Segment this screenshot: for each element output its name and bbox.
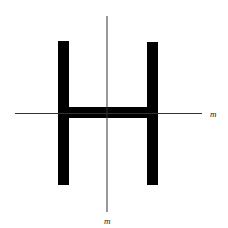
h-section-diagram: m m <box>0 0 228 228</box>
horizontal-axis-label: m <box>210 109 217 119</box>
vertical-axis-label: m <box>104 216 111 226</box>
web-crossbar <box>69 107 147 118</box>
